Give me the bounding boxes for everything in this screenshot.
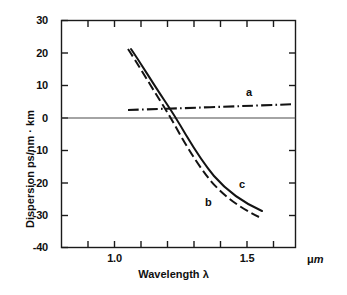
plot-frame <box>62 21 296 248</box>
x-tick-label-1-5: 1.5 <box>227 252 267 264</box>
plot-canvas <box>0 0 347 295</box>
x-axis-unit-label: μm <box>307 253 324 265</box>
curve-a-label: a <box>246 86 252 98</box>
y-tick-label-30: 30 <box>20 14 48 26</box>
dispersion-chart-figure: 30 20 10 0 -10 -20 -30 -40 1.0 1.5 Dispe… <box>0 0 347 295</box>
y-axis-ticks-right <box>289 53 296 216</box>
y-axis-ticks <box>62 21 69 248</box>
y-axis-title: Dispersion ps/nm · km <box>24 110 36 228</box>
x-axis-title: Wavelength λ <box>0 268 347 280</box>
y-tick-label-minus-40: -40 <box>16 241 48 253</box>
curve-b-label: b <box>205 196 212 208</box>
axes-box <box>62 21 296 248</box>
x-axis-ticks-top <box>88 21 274 28</box>
y-tick-label-10: 10 <box>20 79 48 91</box>
curve-a-path <box>128 104 294 110</box>
y-tick-label-20: 20 <box>20 47 48 59</box>
curve-c-label: c <box>239 178 245 190</box>
x-tick-label-1-0: 1.0 <box>95 252 135 264</box>
x-axis-ticks <box>88 241 274 248</box>
